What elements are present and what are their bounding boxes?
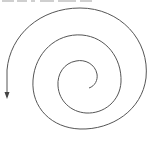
arrow-down-icon	[5, 92, 10, 99]
spiral-diagram	[0, 0, 152, 145]
spiral-path	[7, 8, 146, 129]
